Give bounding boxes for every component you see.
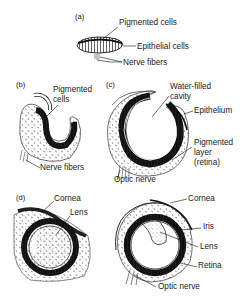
panel-a-eyespot xyxy=(77,27,136,62)
label-c-pigmented-line1: Pigmented xyxy=(194,138,233,148)
label-c-cavity-line2: cavity xyxy=(170,92,191,102)
panel-a-label: (a) xyxy=(75,12,84,22)
label-e-cornea: Cornea xyxy=(188,194,215,204)
label-a-pigmented-cells: Pigmented cells xyxy=(119,18,177,28)
label-e-iris: Iris xyxy=(203,222,214,232)
label-d-lens: Lens xyxy=(70,208,88,218)
label-b-pigmented-line1: Pigmented xyxy=(53,85,92,95)
panel-b-label: (b) xyxy=(16,80,25,90)
panel-b-eyecup xyxy=(20,95,81,168)
label-a-epithelial-cells: Epithelial cells xyxy=(137,42,189,52)
label-b-nerve-fibers: Nerve fibers xyxy=(40,163,84,173)
label-c-epithelium: Epithelium xyxy=(194,106,232,116)
label-c-pigmented-line2: layer xyxy=(194,148,212,158)
label-c-cavity-line1: Water-filled xyxy=(170,82,211,92)
label-b-pigmented-line2: cells xyxy=(53,95,69,105)
panel-d-label: (d) xyxy=(16,193,25,203)
panel-e-complex-eye xyxy=(116,199,201,287)
label-c-optic-nerve: Optic nerve xyxy=(114,175,156,185)
panel-c-label: (c) xyxy=(106,80,115,90)
label-e-retina: Retina xyxy=(198,261,222,271)
panel-c-pinhole-eye xyxy=(107,91,193,180)
label-e-lens: Lens xyxy=(200,242,218,252)
label-a-nerve-fibers: Nerve fibers xyxy=(123,58,167,68)
label-d-cornea: Cornea xyxy=(54,194,81,204)
label-c-pigmented-line3: (retina) xyxy=(194,158,220,168)
label-e-optic-nerve: Optic nerve xyxy=(158,282,200,292)
